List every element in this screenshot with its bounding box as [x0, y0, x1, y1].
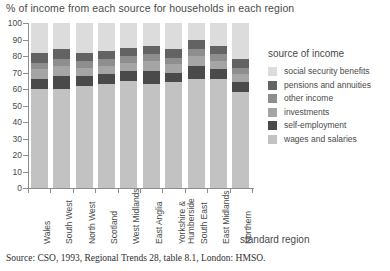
legend-item-label: wages and salaries	[284, 135, 357, 144]
bar-segment[interactable]	[143, 71, 160, 84]
legend-item-label: self-employment	[284, 121, 346, 130]
bar-column[interactable]	[232, 23, 249, 188]
bar-segment[interactable]	[53, 66, 70, 76]
y-axis-tick-label: 30	[0, 135, 22, 144]
bar-segment[interactable]	[210, 54, 227, 61]
bar-segment[interactable]	[31, 89, 48, 188]
bar-segment[interactable]	[165, 64, 182, 72]
bar-segment[interactable]	[98, 59, 115, 66]
bar-segment[interactable]	[210, 46, 227, 54]
bar-column[interactable]	[76, 23, 93, 188]
bar-segment[interactable]	[120, 81, 137, 188]
bar-segment[interactable]	[53, 76, 70, 89]
bar-segment[interactable]	[98, 51, 115, 59]
bar-segment[interactable]	[76, 53, 93, 61]
x-axis-tick	[118, 189, 119, 193]
y-axis-tick-label: 90	[0, 36, 22, 45]
bar-segment[interactable]	[143, 46, 160, 54]
bar-segment[interactable]	[53, 49, 70, 59]
bar-segment[interactable]	[53, 23, 70, 49]
bar-segment[interactable]	[188, 40, 205, 50]
x-axis-category-label: South West	[65, 200, 74, 244]
bar-segment[interactable]	[188, 79, 205, 188]
legend-item[interactable]: social security benefits	[268, 66, 388, 77]
legend-swatch-other-income	[268, 94, 277, 103]
bar-segment[interactable]	[76, 68, 93, 76]
bar-column[interactable]	[53, 23, 70, 188]
x-axis-tick	[252, 189, 253, 193]
legend-swatch-wages-and-salaries	[268, 135, 277, 144]
bar-segment[interactable]	[31, 53, 48, 63]
legend-item-label: social security benefits	[284, 67, 370, 76]
x-axis-category-label: East Anglia	[155, 201, 164, 244]
y-axis-tick-label: 70	[0, 69, 22, 78]
bar-column[interactable]	[165, 23, 182, 188]
bar-segment[interactable]	[98, 66, 115, 74]
x-axis-category-label: Wales	[43, 221, 52, 244]
bar-segment[interactable]	[98, 23, 115, 51]
bar-segment[interactable]	[120, 23, 137, 48]
bar-column[interactable]	[143, 23, 160, 188]
bar-segment[interactable]	[232, 82, 249, 92]
bar-segment[interactable]	[76, 23, 93, 53]
bar-segment[interactable]	[165, 58, 182, 65]
bar-segment[interactable]	[31, 79, 48, 89]
bar-segment[interactable]	[232, 59, 249, 67]
bar-segment[interactable]	[232, 23, 249, 59]
bar-segment[interactable]	[120, 56, 137, 63]
x-axis-category-label: East Midlands	[222, 191, 231, 244]
page-title: % of income from each source for househo…	[6, 2, 294, 14]
legend-item[interactable]: wages and salaries	[268, 134, 388, 145]
bar-segment[interactable]	[188, 66, 205, 79]
bar-column[interactable]	[31, 23, 48, 188]
x-axis-category-label: South East	[200, 202, 209, 244]
bar-segment[interactable]	[165, 49, 182, 57]
bar-segment[interactable]	[98, 74, 115, 84]
bar-segment[interactable]	[76, 61, 93, 68]
legend-item[interactable]: other income	[268, 93, 388, 104]
bar-segment[interactable]	[143, 23, 160, 46]
bar-segment[interactable]	[232, 68, 249, 75]
bar-segment[interactable]	[165, 23, 182, 49]
x-axis-title: standard region	[240, 234, 310, 245]
y-axis-tick-label: 40	[0, 118, 22, 127]
bar-segment[interactable]	[188, 49, 205, 56]
legend-item[interactable]: investments	[268, 107, 388, 118]
bar-segment[interactable]	[165, 82, 182, 188]
bar-segment[interactable]	[31, 69, 48, 79]
bar-segment[interactable]	[232, 92, 249, 188]
bar-segment[interactable]	[143, 61, 160, 71]
bar-segment[interactable]	[210, 61, 227, 69]
bar-segment[interactable]	[210, 23, 227, 46]
bar-segment[interactable]	[188, 56, 205, 66]
bar-segment[interactable]	[143, 54, 160, 61]
x-axis-tick	[73, 189, 74, 193]
y-axis-tick-label: 50	[0, 102, 22, 111]
bar-segment[interactable]	[188, 23, 205, 40]
bar-segment[interactable]	[98, 84, 115, 188]
bar-segment[interactable]	[120, 63, 137, 71]
legend: source of income social security benefit…	[268, 48, 388, 147]
bar-column[interactable]	[188, 23, 205, 188]
bar-segment[interactable]	[76, 76, 93, 86]
bar-segment[interactable]	[120, 71, 137, 81]
bar-segment[interactable]	[210, 79, 227, 188]
bar-segment[interactable]	[53, 59, 70, 66]
bar-column[interactable]	[98, 23, 115, 188]
bar-segment[interactable]	[120, 48, 137, 56]
bar-column[interactable]	[120, 23, 137, 188]
bar-segment[interactable]	[31, 23, 48, 53]
bar-segment[interactable]	[31, 63, 48, 70]
bar-segment[interactable]	[76, 86, 93, 188]
legend-item[interactable]: pensions and annuities	[268, 80, 388, 91]
legend-item-label: pensions and annuities	[284, 81, 371, 90]
bar-column[interactable]	[210, 23, 227, 188]
bar-segment[interactable]	[232, 74, 249, 82]
y-axis-tick-label: 10	[0, 168, 22, 177]
bar-segment[interactable]	[53, 89, 70, 188]
bar-segment[interactable]	[143, 84, 160, 188]
bar-segment[interactable]	[165, 73, 182, 83]
legend-item[interactable]: self-employment	[268, 120, 388, 131]
y-axis-tick-label: 80	[0, 52, 22, 61]
bar-segment[interactable]	[210, 69, 227, 79]
